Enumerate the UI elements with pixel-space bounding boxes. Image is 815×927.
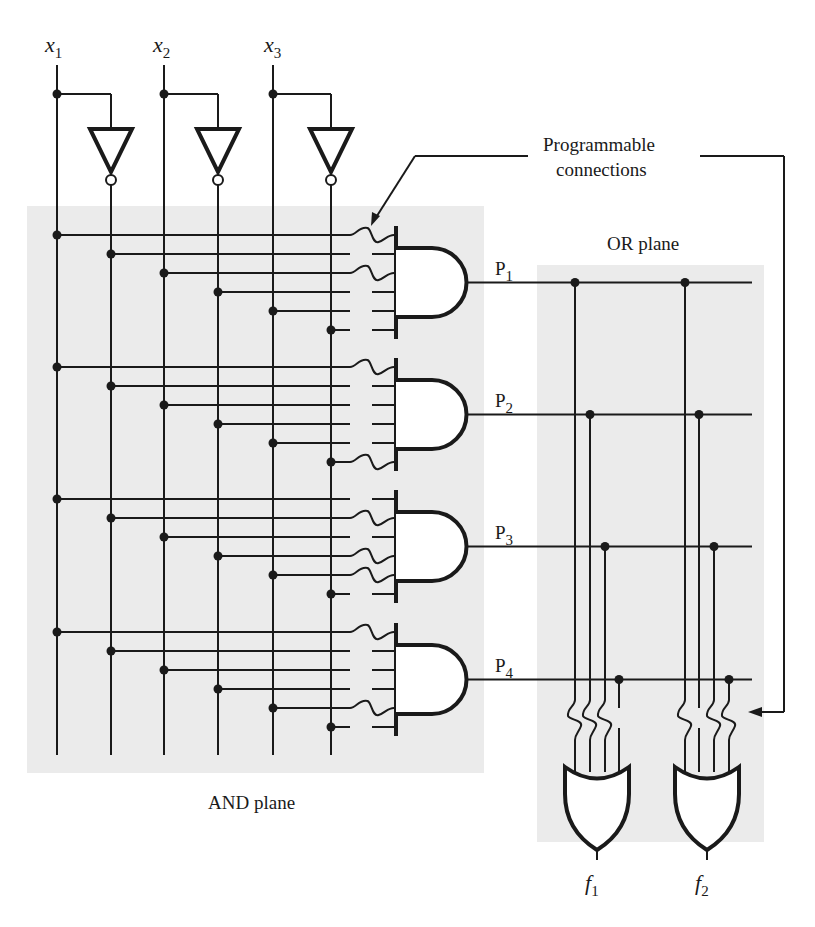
junction-dot xyxy=(107,250,116,259)
junction-dot xyxy=(269,571,278,580)
junction-dot xyxy=(681,278,690,287)
junction-dot xyxy=(571,278,580,287)
inversion-bubble-icon xyxy=(213,175,223,185)
output-label-f2: f2 xyxy=(695,872,709,894)
junction-dot xyxy=(214,288,223,297)
not-gate-icon xyxy=(310,129,352,172)
junction-dot xyxy=(214,420,223,429)
inversion-bubble-icon xyxy=(106,175,116,185)
junction-dot xyxy=(53,628,62,637)
junction-dot xyxy=(327,326,336,335)
junction-dot xyxy=(615,675,624,684)
junction-dot xyxy=(53,495,62,504)
not-gate-icon xyxy=(197,129,239,172)
junction-dot xyxy=(107,514,116,523)
junction-dot xyxy=(710,542,719,551)
junction-dot xyxy=(269,439,278,448)
and-gate-icon xyxy=(396,645,467,714)
output-label-f1: f1 xyxy=(585,872,599,894)
junction-dot xyxy=(214,685,223,694)
junction-dot xyxy=(695,410,704,419)
or-plane-label: OR plane xyxy=(607,234,679,253)
junction-dot xyxy=(269,307,278,316)
junction-dot xyxy=(107,382,116,391)
not-gate-icon xyxy=(90,129,132,172)
product-label-p1: P1 xyxy=(495,259,513,278)
junction-dot xyxy=(53,231,62,240)
pla-diagram xyxy=(0,0,815,927)
and-gate-icon xyxy=(396,380,467,449)
junction-dot xyxy=(601,542,610,551)
junction-dot xyxy=(725,675,734,684)
junction-dot xyxy=(269,704,278,713)
and-gate-icon xyxy=(396,248,467,317)
junction-dot xyxy=(53,90,62,99)
junction-dot xyxy=(160,90,169,99)
and-gate-icon xyxy=(396,512,467,581)
junction-dot xyxy=(160,269,169,278)
input-label-x3: x3 xyxy=(264,34,281,56)
product-label-p2: P2 xyxy=(495,391,513,410)
annotation-line2: connections xyxy=(556,160,647,179)
junction-dot xyxy=(327,590,336,599)
inversion-bubble-icon xyxy=(326,175,336,185)
junction-dot xyxy=(327,723,336,732)
annotation-line1: Programmable xyxy=(543,135,655,154)
junction-dot xyxy=(269,90,278,99)
junction-dot xyxy=(160,401,169,410)
product-label-p3: P3 xyxy=(495,523,513,542)
input-label-x1: x1 xyxy=(45,34,62,56)
input-label-x2: x2 xyxy=(153,34,170,56)
product-label-p4: P4 xyxy=(495,656,513,675)
junction-dot xyxy=(160,666,169,675)
junction-dot xyxy=(214,552,223,561)
junction-dot xyxy=(53,363,62,372)
junction-dot xyxy=(160,533,169,542)
junction-dot xyxy=(586,410,595,419)
junction-dot xyxy=(107,647,116,656)
junction-dot xyxy=(327,458,336,467)
and-plane-label: AND plane xyxy=(208,793,295,812)
